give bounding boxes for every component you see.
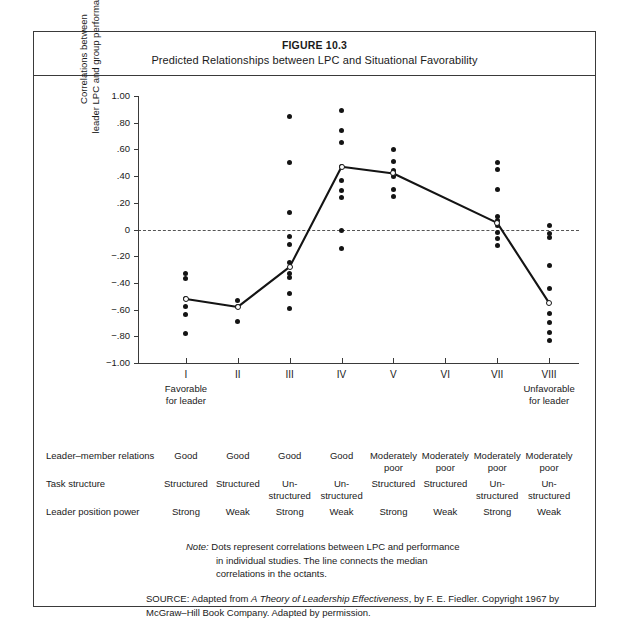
condition-row: Leader–member relationsGoodGoodGoodGoodM…	[34, 450, 597, 478]
median-marker	[494, 220, 500, 226]
figure-card: FIGURE 10.3 Predicted Relationships betw…	[33, 31, 596, 607]
condition-table: Leader–member relationsGoodGoodGoodGoodM…	[34, 450, 597, 534]
median-marker	[183, 296, 189, 302]
figure-source: SOURCE: Adapted from A Theory of Leaders…	[146, 592, 576, 620]
note-line2: in individual studies. The line connects…	[186, 554, 566, 568]
median-marker	[546, 300, 552, 306]
median-marker	[235, 304, 241, 310]
condition-row-label: Leader position power	[46, 506, 139, 518]
median-marker	[287, 264, 293, 270]
condition-cell: Moderatelypoor	[518, 450, 580, 473]
condition-row-label: Leader–member relations	[46, 450, 154, 462]
source-italic-title: A Theory of Leadership Effectiveness	[251, 593, 409, 604]
condition-cell: Weak	[518, 506, 580, 518]
condition-row: Task structureStructuredStructuredUn-str…	[34, 478, 597, 506]
note-line3: correlations in the octants.	[186, 567, 566, 581]
figure-number: FIGURE 10.3	[34, 38, 595, 52]
source-prefix: SOURCE: Adapted from	[146, 593, 251, 604]
median-line	[34, 76, 597, 396]
left-endnote-line2: for leader	[166, 395, 206, 406]
right-endnote-line2: for leader	[529, 395, 569, 406]
title-block: FIGURE 10.3 Predicted Relationships betw…	[34, 32, 595, 76]
source-suffix: , by F. E. Fiedler. Copyright	[409, 593, 523, 604]
median-marker	[339, 164, 345, 170]
figure-title: Predicted Relationships between LPC and …	[34, 52, 595, 68]
note-label: Note:	[186, 541, 209, 552]
condition-cell: Un-structured	[518, 478, 580, 501]
chart-plot-area: Correlations between leader LPC and grou…	[34, 76, 597, 396]
condition-row-label: Task structure	[46, 478, 105, 490]
figure-note: Note: Dots represent correlations betwee…	[186, 540, 566, 581]
condition-row: Leader position powerStrongWeakStrongWea…	[34, 506, 597, 534]
note-line1: Dots represent correlations between LPC …	[211, 541, 459, 552]
